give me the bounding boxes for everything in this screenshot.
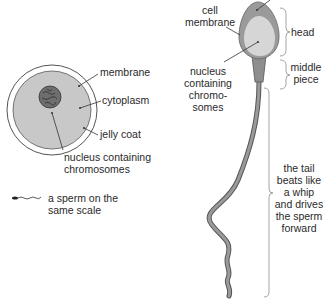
scale-note-line2: same scale (48, 204, 101, 216)
sperm-middle-piece (252, 56, 266, 82)
jelly-coat-dot (83, 127, 85, 129)
nucleus-dot (51, 112, 53, 114)
egg-nucleus (39, 86, 61, 108)
sperm-to-scale-icon (12, 196, 41, 199)
egg-nucleus-label-line1: nucleus containing (64, 151, 151, 163)
diagram-canvas (0, 0, 326, 299)
tail-label-line5: the sperm (272, 210, 326, 222)
middle-piece-label-line1: middle (286, 61, 326, 73)
egg-cytoplasm-label: cytoplasm (102, 94, 149, 106)
egg-cell (7, 65, 101, 155)
acrosome-dot (256, 9, 258, 11)
egg-nucleus-label-line2: chromosomes (64, 163, 130, 175)
tail-label-line3: a whip (272, 186, 326, 198)
sperm-nucleus-label-line1: nucleus (180, 65, 236, 77)
membrane-dot (78, 85, 80, 87)
sperm-cell (209, 0, 290, 297)
scale-note-line1: a sperm on the (48, 192, 118, 204)
cytoplasm-dot (79, 107, 81, 109)
sperm-nucleus-label-line2: containing (180, 77, 236, 89)
sperm-cell-membrane-label-line2: membrane (182, 16, 238, 28)
tail-label-line6: forward (272, 222, 326, 234)
middle-piece-label-line2: piece (286, 73, 326, 85)
sperm-nucleus-label-line3: chromo- (180, 89, 236, 101)
egg-membrane-label: membrane (100, 66, 150, 78)
sperm-nucleus-label-line4: somes (180, 101, 236, 113)
tail-label-line2: beats like (272, 174, 326, 186)
tail-label-line1: the tail (272, 162, 326, 174)
egg-cytoplasm (13, 71, 91, 149)
head-region-label: head (291, 26, 314, 38)
tail-label-line4: and drives (272, 198, 326, 210)
cell-membrane-leader (226, 27, 240, 35)
sperm-cell-membrane-label-line1: cell (182, 4, 238, 16)
egg-jelly-coat-label: jelly coat (100, 128, 141, 140)
head-brace (280, 8, 290, 56)
sperm-nucleus-dot (257, 41, 259, 43)
